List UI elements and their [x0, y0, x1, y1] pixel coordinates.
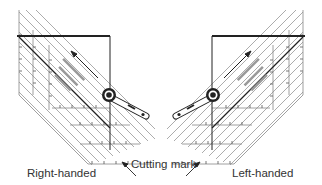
cut-direction-arrow-right: [71, 51, 98, 78]
cutting-mark-label: Cutting mark: [131, 158, 196, 170]
left-handed-illustration: [167, 10, 305, 165]
fabric-edge-right: [17, 36, 110, 150]
ruler-outline-right: [19, 10, 150, 164]
right-handed-label: Right-handed: [27, 167, 96, 179]
left-handed-label: Left-handed: [232, 167, 293, 179]
